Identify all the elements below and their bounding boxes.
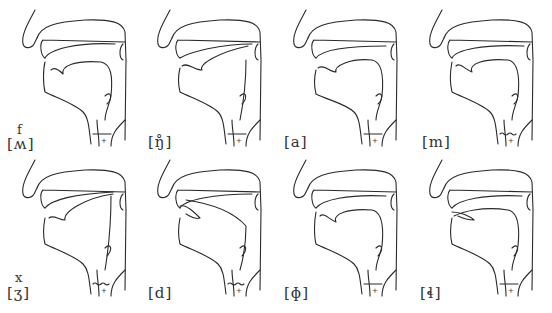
tongue-body [186, 200, 246, 270]
palate [41, 40, 125, 60]
trachea [368, 120, 370, 146]
panel-annotation: x [15, 270, 22, 285]
glottis-marker: + [372, 137, 378, 145]
panel-label: [ɸ] [284, 284, 309, 302]
vocal-tract-panel-7: + [ɸ] [276, 156, 414, 312]
upper-lip [316, 46, 386, 58]
glottis-marker: + [236, 287, 242, 295]
glottis-marker: + [508, 287, 514, 295]
palate [448, 40, 532, 60]
vocal-tract-panel-1: + f [ʍ] [5, 0, 143, 156]
glottis-marker: + [372, 287, 378, 295]
vocal-tract-panel-6: + [d] [140, 156, 278, 312]
panel-label: [m] [422, 133, 451, 151]
nose-outline [430, 10, 444, 48]
glottis-marker: + [508, 137, 514, 145]
pharynx-back [111, 120, 125, 146]
panel-label: [ʒ] [7, 284, 30, 302]
lower-jaw [44, 218, 92, 294]
vocal-tract-panel-4: + [m] [412, 0, 550, 156]
pharynx-back [518, 270, 532, 296]
tongue [456, 60, 519, 120]
palate [312, 40, 396, 60]
pharynx-back [246, 270, 260, 296]
glottis-marker: + [101, 287, 107, 295]
head-outline [172, 170, 261, 290]
pharynx-back [246, 120, 260, 146]
pharynx-back [382, 120, 396, 146]
trachea [504, 120, 506, 146]
pharynx-front [105, 196, 111, 270]
panel-label: [a] [284, 133, 308, 151]
vocal-tract-panel-5: + x [ʒ] [5, 156, 143, 312]
velum-closure [45, 192, 113, 208]
head-outline [37, 20, 126, 140]
nose-outline [294, 160, 308, 198]
lower-jaw [451, 62, 499, 144]
vocal-folds-vibrating [500, 133, 516, 135]
nose-outline [294, 10, 308, 48]
tongue-low [318, 60, 383, 120]
lower-jaw [451, 218, 499, 294]
lower-jaw [44, 62, 92, 144]
tongue [182, 46, 248, 70]
vocal-tract-panel-2: + [ŋ̊] [140, 0, 278, 156]
upper-lip [452, 46, 524, 58]
trachea [504, 270, 506, 296]
head-outline [444, 170, 533, 290]
tongue-tip [180, 206, 200, 219]
palate [448, 190, 532, 210]
panel-label: [d] [148, 284, 172, 302]
panel-label: [ɬ] [420, 284, 442, 302]
tongue [51, 62, 112, 120]
vocal-tract-drawing: + [5, 0, 143, 156]
head-outline [308, 170, 397, 290]
glottis-marker: + [236, 137, 242, 145]
panel-label: [ʍ] [7, 135, 35, 153]
nose-outline [158, 160, 172, 198]
tongue-raised [49, 194, 113, 220]
palate [176, 40, 260, 60]
pharynx-back [111, 270, 125, 296]
trachea [97, 120, 99, 146]
vocal-folds-vibrating [93, 283, 109, 285]
head-outline [172, 20, 261, 140]
nose-outline [430, 160, 444, 198]
head-outline [37, 170, 126, 290]
trachea [232, 270, 234, 296]
trachea [97, 270, 99, 296]
nose-outline [23, 10, 37, 48]
nose-outline [158, 10, 172, 48]
upper-lip [452, 196, 522, 208]
lower-jaw [179, 68, 227, 144]
panel-label: [ŋ̊] [148, 133, 172, 151]
pharynx-back [518, 120, 532, 146]
vocal-folds-vibrating [228, 283, 244, 285]
trachea [368, 270, 370, 296]
lower-jaw [179, 218, 227, 294]
nose-outline [23, 160, 37, 198]
palate [312, 190, 396, 210]
lower-jaw [315, 212, 363, 294]
palate [41, 190, 125, 210]
head-outline [308, 20, 397, 140]
pharynx-back [382, 270, 396, 296]
upper-lip [45, 44, 115, 58]
glottis-marker: + [101, 137, 107, 145]
head-outline [444, 20, 533, 140]
vocal-tract-panel-8: + [ɬ] [412, 156, 550, 312]
upper-lip [316, 196, 386, 208]
vocal-tract-panel-3: + [a] [276, 0, 414, 156]
pharynx-front [240, 60, 246, 120]
tongue [320, 210, 383, 270]
trachea [232, 120, 234, 146]
lower-jaw [315, 70, 363, 144]
